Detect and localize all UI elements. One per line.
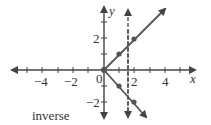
y-tick-label-neg2: −2 (86, 95, 100, 110)
lower-branch-line (104, 70, 146, 117)
y-tick-label-2: 2 (93, 31, 100, 46)
x-axis-label: x (189, 71, 196, 86)
y-axis-label: y (107, 3, 115, 18)
caption: inverse (32, 108, 70, 123)
x-tick-label-neg2: −2 (64, 74, 78, 89)
inverse-relation-graph: −4 −2 0 2 4 x y 2 −2 inverse (0, 0, 211, 125)
x-tick-label-2: 2 (131, 74, 138, 89)
x-tick-label-neg4: −4 (34, 74, 48, 89)
x-tick-label-4: 4 (162, 74, 169, 89)
plot-area: −4 −2 0 2 4 x y 2 −2 inverse (0, 0, 211, 125)
origin-label: 0 (96, 71, 103, 86)
